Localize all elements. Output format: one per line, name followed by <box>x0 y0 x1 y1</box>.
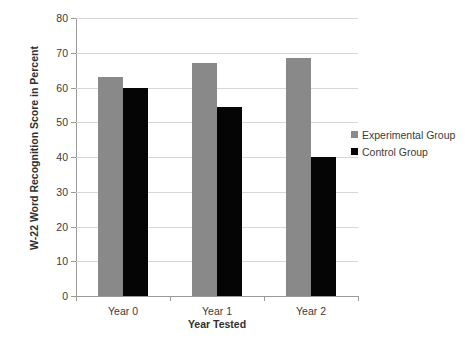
y-tick-label-wrap: 80 <box>38 13 68 23</box>
y-tick-label-wrap: 10 <box>38 256 68 266</box>
x-tick <box>76 296 77 301</box>
legend-label: Experimental Group <box>362 129 455 141</box>
x-tick-label: Year 1 <box>170 305 264 317</box>
y-tick-label-wrap: 30 <box>38 187 68 197</box>
y-tick-label-wrap: 0 <box>38 291 68 301</box>
x-tick <box>264 296 265 301</box>
gridline <box>76 53 358 54</box>
gridline <box>76 296 358 297</box>
y-tick-label-wrap: 50 <box>38 117 68 127</box>
x-axis-title: Year Tested <box>76 318 358 330</box>
bar-control-group-year-1 <box>217 107 242 296</box>
y-tick-label-wrap: 70 <box>38 48 68 58</box>
y-tick-label: 60 <box>42 83 68 93</box>
y-tick-label-wrap: 60 <box>38 83 68 93</box>
y-tick-label: 10 <box>42 256 68 266</box>
y-tick-label: 20 <box>42 222 68 232</box>
chart-legend: Experimental GroupControl Group <box>351 127 455 161</box>
legend-item[interactable]: Control Group <box>351 144 455 159</box>
y-tick-label-wrap: 20 <box>38 222 68 232</box>
y-tick-label-wrap: 40 <box>38 152 68 162</box>
legend-item[interactable]: Experimental Group <box>351 127 455 142</box>
y-tick-label: 40 <box>42 152 68 162</box>
legend-swatch-icon <box>351 131 358 138</box>
bar-control-group-year-0 <box>123 88 148 297</box>
y-tick-label: 30 <box>42 187 68 197</box>
bar-experimental-group-year-2 <box>286 58 311 296</box>
x-tick <box>170 296 171 301</box>
x-tick <box>358 296 359 301</box>
bar-chart-figure: W-22 Word Recognition Score in Percent 0… <box>0 0 468 343</box>
bar-experimental-group-year-1 <box>192 63 217 296</box>
bar-control-group-year-2 <box>311 157 336 296</box>
legend-swatch-icon <box>351 148 358 155</box>
y-tick-label: 50 <box>42 117 68 127</box>
legend-label: Control Group <box>362 146 428 158</box>
plot-area <box>76 18 358 296</box>
bar-experimental-group-year-0 <box>98 77 123 296</box>
x-tick-label: Year 2 <box>264 305 358 317</box>
x-tick-label: Year 0 <box>76 305 170 317</box>
y-tick-label: 80 <box>42 13 68 23</box>
y-tick-label: 70 <box>42 48 68 58</box>
y-tick-label: 0 <box>42 291 68 301</box>
gridline <box>76 18 358 19</box>
